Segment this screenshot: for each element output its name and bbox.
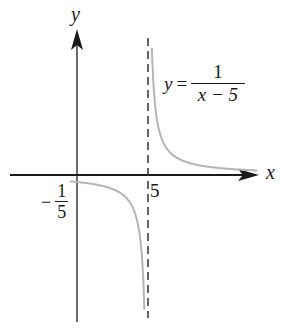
fraction-numerator: 1 [55, 182, 68, 202]
equation-fraction: 1 x − 5 [191, 62, 245, 104]
fraction: 1 5 [55, 182, 68, 221]
y-intercept-label: − 1 5 [41, 182, 68, 221]
fraction-denominator: 5 [57, 202, 66, 221]
equals-sign: = [176, 74, 187, 93]
x-axis-label: x [266, 162, 275, 182]
function-equation: y = 1 x − 5 [164, 62, 245, 104]
y-axis-label: y [71, 4, 80, 24]
asymptote-x-label: 5 [150, 181, 160, 200]
function-graph [0, 0, 290, 329]
equation-numerator: 1 [191, 62, 245, 84]
equation-denominator: x − 5 [198, 84, 238, 104]
curve-left-branch [70, 181, 144, 309]
minus-sign: − [41, 193, 51, 211]
equation-lhs: y [164, 74, 172, 93]
